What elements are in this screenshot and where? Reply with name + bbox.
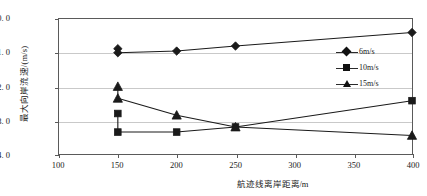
data-point-square — [173, 129, 180, 136]
x-axis-label: 航迹线离岸距离/m — [0, 177, 427, 189]
x-tickmark-250 — [237, 154, 238, 158]
square-marker-icon — [336, 63, 358, 73]
legend-label-10ms: 10m/s — [358, 64, 379, 72]
series-line — [118, 98, 412, 135]
x-tick-label-400: 400 — [393, 160, 427, 170]
legend-label-6ms: 6m/s — [358, 48, 375, 56]
x-tick-label-200: 200 — [156, 160, 196, 170]
diamond-marker-icon — [336, 47, 358, 57]
x-tick-label-100: 100 — [38, 160, 78, 170]
legend-item-6ms[interactable]: 6m/s — [336, 44, 410, 60]
x-tickmark-150 — [118, 154, 119, 158]
x-tick-label-250: 250 — [216, 160, 256, 170]
x-tick-label-350: 350 — [334, 160, 374, 170]
data-point-square — [115, 129, 122, 136]
data-point-diamond — [408, 28, 416, 36]
data-point-diamond — [172, 47, 180, 55]
x-tick-label-150: 150 — [97, 160, 137, 170]
legend-label-15ms: 15m/s — [358, 80, 379, 88]
x-tickmark-400 — [413, 154, 414, 158]
legend: 6m/s 10m/s 15m/s — [336, 44, 410, 92]
y-tick-label-4: -4. 0 — [0, 150, 10, 160]
x-tick-label-300: 300 — [275, 160, 315, 170]
data-point-square — [409, 97, 416, 104]
series-10m-per-s — [115, 97, 416, 135]
y-tick-label-3: -3. 0 — [0, 116, 10, 126]
x-tickmark-100 — [59, 154, 60, 158]
data-point-triangle — [172, 111, 181, 120]
data-point-diamond — [231, 42, 239, 50]
y-tick-label-1: -1. 0 — [0, 47, 10, 57]
y-tick-label-2: -2. 0 — [0, 82, 10, 92]
chart-container: 最大向岸流速/(m/s) 0. 0 -1. 0 -2. 0 -3. 0 -4. … — [0, 0, 427, 196]
legend-item-15ms[interactable]: 15m/s — [336, 76, 410, 92]
y-axis-label: 最大向岸流速/(m/s) — [17, 9, 29, 159]
x-tickmark-350 — [355, 154, 356, 158]
data-point-square — [115, 110, 122, 117]
triangle-marker-icon — [336, 79, 358, 89]
legend-item-10ms[interactable]: 10m/s — [336, 60, 410, 76]
x-tickmark-200 — [177, 154, 178, 158]
data-point-triangle — [113, 82, 122, 91]
data-point-triangle — [113, 94, 122, 103]
x-tickmark-300 — [296, 154, 297, 158]
y-tick-label-0: 0. 0 — [0, 13, 10, 23]
series-line — [118, 101, 412, 132]
